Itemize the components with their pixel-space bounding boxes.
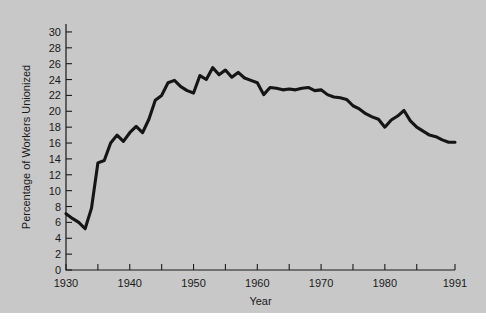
axes <box>66 24 455 270</box>
bottom-white-strip <box>0 313 486 325</box>
y-tick-label: 2 <box>55 248 61 260</box>
y-tick-label: 12 <box>49 169 61 181</box>
x-tick-label: 1991 <box>443 277 467 289</box>
y-axis-tick-labels: 024681012141618202224262830 <box>49 26 61 276</box>
y-tick-label: 14 <box>49 153 61 165</box>
y-tick-label: 22 <box>49 89 61 101</box>
y-tick-label: 24 <box>49 74 61 86</box>
y-tick-label: 0 <box>55 264 61 276</box>
x-tick-label: 1940 <box>118 277 142 289</box>
y-axis-ticks <box>66 32 72 270</box>
axis-frame <box>66 24 455 270</box>
y-tick-label: 4 <box>55 232 61 244</box>
y-tick-label: 26 <box>49 58 61 70</box>
x-axis-title: Year <box>249 295 272 307</box>
y-tick-label: 28 <box>49 42 61 54</box>
y-tick-label: 8 <box>55 201 61 213</box>
chart-screenshot: 024681012141618202224262830 193019401950… <box>0 0 486 325</box>
x-tick-label: 1980 <box>373 277 397 289</box>
y-tick-label: 10 <box>49 185 61 197</box>
data-series-line <box>66 68 455 229</box>
x-tick-label: 1930 <box>54 277 78 289</box>
line-chart: 024681012141618202224262830 193019401950… <box>0 0 486 313</box>
x-axis-tick-labels: 1930194019501960197019801991 <box>54 277 467 289</box>
x-axis-ticks <box>66 264 455 270</box>
y-axis-title: Percentage of Workers Unionized <box>20 65 32 229</box>
y-tick-label: 6 <box>55 216 61 228</box>
y-tick-label: 16 <box>49 137 61 149</box>
x-tick-label: 1960 <box>245 277 269 289</box>
y-tick-label: 20 <box>49 105 61 117</box>
x-tick-label: 1950 <box>181 277 205 289</box>
figure-canvas: 024681012141618202224262830 193019401950… <box>0 0 486 313</box>
x-tick-label: 1970 <box>309 277 333 289</box>
y-tick-label: 30 <box>49 26 61 38</box>
y-tick-label: 18 <box>49 121 61 133</box>
